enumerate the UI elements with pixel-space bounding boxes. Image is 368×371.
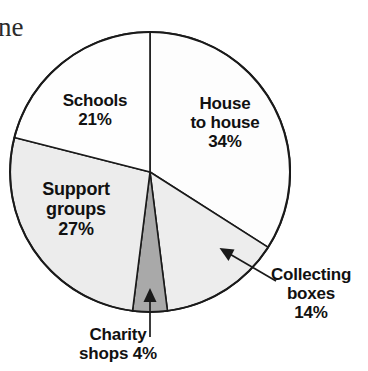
pie-chart-figure: ne House to house 34% Schools 21% Suppor…: [0, 0, 368, 371]
pie-label-house-to-house: House to house 34%: [176, 94, 274, 151]
pie-label-schools: Schools 21%: [48, 91, 142, 129]
pie-label-collecting-boxes: Collecting boxes 14%: [255, 265, 367, 322]
pie-label-charity-shops: Charity shops 4%: [56, 325, 180, 363]
pie-label-support-groups: Support groups 27%: [21, 179, 131, 239]
